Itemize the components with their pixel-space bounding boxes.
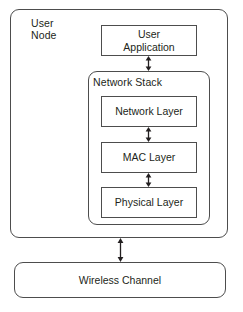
network-layer-label: Network Layer: [102, 97, 196, 126]
arrow-mac-layer-to-physical-layer-icon: [144, 173, 153, 187]
wireless-channel-label: Wireless Channel: [15, 263, 225, 297]
arrow-user-node-to-wireless-channel-icon: [116, 238, 125, 262]
diagram-canvas: User Node User Application Network Stack…: [0, 0, 243, 312]
user-application-box: User Application: [101, 25, 197, 56]
arrow-network-layer-to-mac-layer-icon: [144, 127, 153, 142]
user-application-label: User Application: [102, 26, 196, 55]
arrow-user-application-to-network-stack-icon: [144, 56, 153, 71]
network-stack-label: Network Stack: [93, 76, 162, 88]
network-layer-box: Network Layer: [101, 96, 197, 127]
physical-layer-box: Physical Layer: [101, 187, 197, 218]
mac-layer-label: MAC Layer: [102, 143, 196, 172]
physical-layer-label: Physical Layer: [102, 188, 196, 217]
wireless-channel-box: Wireless Channel: [14, 262, 226, 298]
mac-layer-box: MAC Layer: [101, 142, 197, 173]
user-node-label: User Node: [31, 17, 57, 42]
